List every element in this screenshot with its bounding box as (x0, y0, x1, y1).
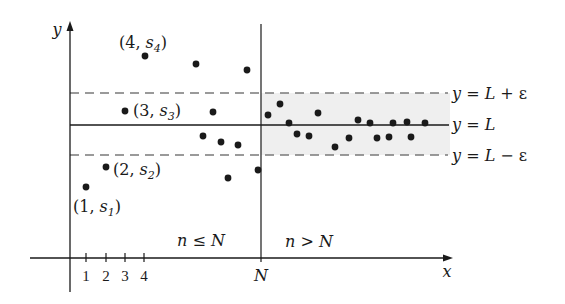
y-axis-arrow-icon (67, 21, 74, 31)
sequence-point (142, 53, 149, 60)
tick-label-1: 1 (82, 268, 90, 284)
region-label-n-gt-N: n > N (285, 232, 334, 251)
point-label-3: (3, s3) (133, 101, 181, 123)
N-tick-label: N (253, 266, 269, 285)
sequence-point (422, 120, 429, 127)
sequence-point (265, 112, 272, 119)
sequence-point (210, 109, 217, 116)
point-label-4: (4, s4) (119, 33, 167, 55)
region-label-n-le-N: n ≤ N (177, 231, 226, 250)
convergence-diagram: 1 2 3 4 N x y n ≤ N n > N y = L + ε y = … (0, 0, 565, 304)
sequence-point (225, 175, 232, 182)
x-axis-label: x (442, 262, 451, 281)
sequence-point (408, 134, 415, 141)
sequence-point (235, 142, 242, 149)
y-axis-label: y (51, 20, 62, 39)
sequence-point (218, 139, 225, 146)
sequence-point (294, 131, 301, 138)
sequence-point (193, 61, 200, 68)
sequence-point (244, 67, 251, 74)
limit-label: y = L (451, 115, 495, 134)
sequence-point (122, 108, 129, 115)
sequence-point (103, 164, 110, 171)
sequence-point (83, 184, 90, 191)
sequence-point (277, 101, 284, 108)
sequence-point (200, 133, 207, 140)
point-label-2: (2, s2) (113, 160, 161, 182)
sequence-point (374, 135, 381, 142)
sequence-point (315, 110, 322, 117)
point-label-1: (1, s1) (73, 197, 121, 219)
sequence-point (386, 134, 393, 141)
sequence-point (404, 119, 411, 126)
upper-bound-label: y = L + ε (451, 84, 527, 103)
tick-label-2: 2 (102, 268, 110, 284)
sequence-point (306, 133, 313, 140)
sequence-point (255, 167, 262, 174)
sequence-point (346, 135, 353, 142)
sequence-point (286, 120, 293, 127)
x-axis-arrow-icon (443, 255, 453, 262)
lower-bound-label: y = L − ε (451, 146, 527, 165)
tick-label-4: 4 (140, 268, 148, 284)
sequence-point (332, 144, 339, 151)
tick-label-3: 3 (121, 268, 129, 284)
sequence-point (367, 120, 374, 127)
sequence-point (390, 120, 397, 127)
sequence-point (355, 117, 362, 124)
